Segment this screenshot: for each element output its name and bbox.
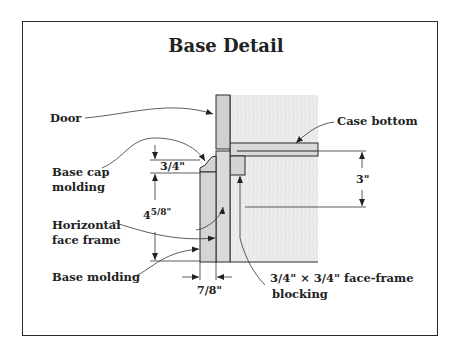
page-title: Base Detail xyxy=(168,35,284,56)
case-side-panel xyxy=(230,95,318,262)
label-horizontal-1: Horizontal xyxy=(52,218,121,232)
label-blocking-1: 3/4" × 3/4" face-frame xyxy=(270,271,413,285)
label-case-bottom: Case bottom xyxy=(337,114,418,128)
base-cap-molding xyxy=(200,156,216,172)
dim-molding-thickness: 7/8" xyxy=(197,284,222,297)
dim-cap-height: 3/4" xyxy=(160,160,185,173)
label-door: Door xyxy=(50,111,82,125)
base-molding xyxy=(200,172,216,262)
label-blocking-2: blocking xyxy=(272,287,328,301)
label-base-molding: Base molding xyxy=(52,270,140,284)
door xyxy=(216,95,230,149)
dimension-molding-thickness xyxy=(182,262,232,280)
horizontal-face-frame xyxy=(216,151,230,262)
base-detail-drawing: Base Detail 3/4" 45/8" xyxy=(0,0,451,357)
label-base-cap-2: molding xyxy=(52,180,105,194)
face-frame-blocking xyxy=(230,156,245,175)
case-bottom-panel xyxy=(230,143,318,156)
label-horizontal-2: face frame xyxy=(52,233,121,247)
label-base-cap-1: Base cap xyxy=(52,165,109,179)
dim-base-height: 45/8" xyxy=(143,207,171,222)
dim-case-bottom-offset: 3" xyxy=(356,173,369,186)
